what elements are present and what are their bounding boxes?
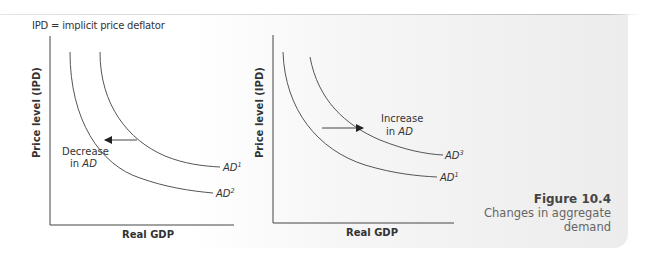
right-shift-text-line2: in AD — [386, 126, 413, 137]
left-shift-text-line2: in AD — [70, 158, 97, 169]
figure-title-line2: demand — [484, 220, 611, 234]
left-ad2-base: AD — [215, 188, 231, 199]
right-shift-prefix: in — [386, 126, 398, 137]
left-y-axis-label: Price level (IPD) — [31, 67, 42, 158]
right-shift-em: AD — [397, 126, 413, 137]
figure-number: Figure 10.4 — [484, 192, 611, 206]
left-label-ad1: AD1 — [222, 161, 242, 173]
right-ad3-sup: 3 — [460, 149, 464, 157]
left-curve-ad1 — [100, 52, 220, 167]
figure-caption: Figure 10.4 Changes in aggregate demand — [484, 192, 611, 234]
right-ad1-base: AD — [439, 172, 455, 183]
right-label-ad3: AD3 — [444, 149, 464, 161]
right-chart: Price level (IPD) Real GDP Increase in A… — [254, 35, 464, 238]
right-y-axis-label: Price level (IPD) — [254, 67, 265, 158]
figure-title-line1: Changes in aggregate — [484, 206, 611, 220]
right-ad3-base: AD — [444, 150, 460, 161]
left-chart: Price level (IPD) Real GDP Decrease in A… — [31, 36, 242, 240]
right-shift-text-line1: Increase — [381, 113, 423, 124]
right-ad1-sup: 1 — [455, 171, 459, 179]
right-curve-ad3 — [310, 57, 443, 155]
left-x-axis-label: Real GDP — [122, 229, 174, 240]
left-shift-text-line1: Decrease — [62, 146, 109, 157]
left-ad1-base: AD — [222, 162, 238, 173]
left-ad1-sup: 1 — [238, 161, 242, 169]
left-ad2-sup: 2 — [231, 187, 235, 195]
left-label-ad2: AD2 — [215, 187, 235, 199]
right-x-axis-label: Real GDP — [346, 227, 398, 238]
left-shift-prefix: in — [70, 158, 82, 169]
left-curve-ad2 — [70, 52, 213, 193]
right-label-ad1: AD1 — [439, 171, 459, 183]
left-shift-em: AD — [81, 158, 97, 169]
